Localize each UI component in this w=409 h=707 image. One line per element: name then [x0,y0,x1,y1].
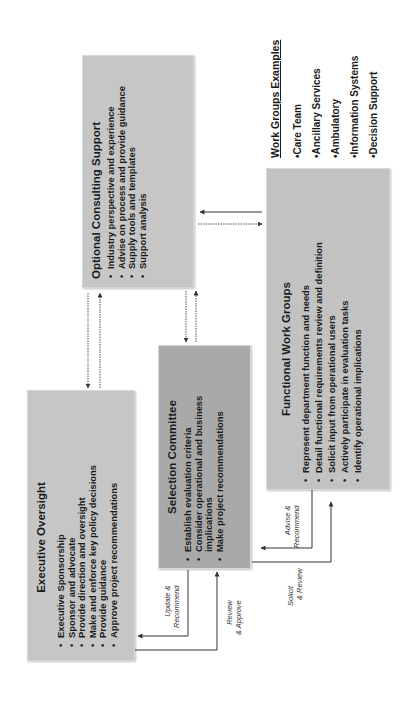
label-line: & Approve [234,600,243,635]
fwg-bullet: Detail functional requirements review an… [312,175,325,483]
examples-list: •Care Team •Ancillary Services •Ambulato… [288,22,383,158]
fwg-bullet: Solicit input from operational users [325,175,338,483]
executive-bullet: Approve project recommendations [109,397,120,648]
label-line: Solicit [286,568,295,608]
functional-work-groups-box: Functional Work Groups Represent departm… [266,168,390,490]
example-item: •Decision Support [364,22,383,158]
selection-bullet: Establish evaluation criteria [183,352,194,562]
consulting-bullets: Industry perspective and experience Advi… [106,62,148,279]
label-line: & Review [295,568,304,608]
label-solicit-review: Solicit & Review [286,568,304,608]
selection-bullet: Consider operational and business implic… [194,352,215,562]
fwg-bullet: Represent department function and needs [299,175,312,483]
example-item: •Ambulatory [326,22,345,158]
selection-bullet: Make project recommendations [215,352,226,562]
optional-consulting-support-box: Optional Consulting Support Industry per… [82,55,194,288]
label-update-recommend: Update & Recommend [163,585,181,628]
label-line: Recommend [172,585,181,628]
executive-oversight-box: Executive Oversight Executive Sponsorshi… [27,390,135,661]
selection-bullets: Establish evaluation criteria Consider o… [183,352,225,562]
fwg-bullet: Identify operational implications [351,175,364,483]
work-groups-examples: Work Groups Examples •Care Team •Ancilla… [268,22,388,162]
consulting-bullet: Support analysis [138,62,149,279]
label-line: Advise & [283,505,292,548]
label-line: Recommend [292,505,301,548]
selection-title: Selection Committee [165,352,179,562]
examples-title: Work Groups Examples [269,22,282,158]
consulting-bullet: Industry perspective and experience [106,62,117,279]
executive-bullets: Executive Sponsorship Sponsor and advoca… [56,397,120,648]
consulting-title: Optional Consulting Support [89,62,103,279]
fwg-bullets: Represent department function and needs … [299,175,364,483]
example-item: •Ancillary Services [307,22,326,158]
fwg-title: Functional Work Groups [279,175,293,483]
fwg-bullet: Actively participate in evaluation tasks [338,175,351,483]
executive-bullet: Executive Sponsorship [56,397,67,648]
executive-title: Executive Oversight [34,397,48,648]
example-item: •Information Systems [345,22,364,158]
label-line: Review [225,600,234,635]
label-line: Update & [163,585,172,628]
label-advise-recommend: Advise & Recommend [283,505,301,548]
example-item: •Care Team [288,22,307,158]
selection-committee-box: Selection Committee Establish evaluation… [158,345,251,569]
label-review-approve: Review & Approve [225,600,243,635]
